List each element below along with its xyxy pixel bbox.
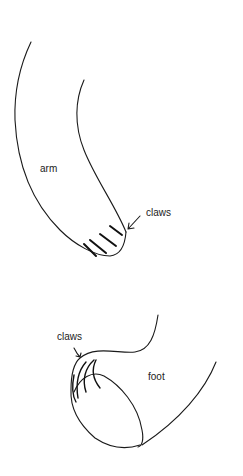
arm-drawing <box>15 42 140 256</box>
arm-inner-outline <box>77 80 126 232</box>
arm-claw-2 <box>100 234 116 246</box>
arm-claws-arrow <box>128 216 140 229</box>
foot-claws-arrow <box>74 348 81 357</box>
arm-outer-outline <box>15 42 126 256</box>
foot-claws-label: claws <box>57 331 82 342</box>
foot-claw-2 <box>84 360 94 392</box>
foot-label: foot <box>148 371 165 382</box>
arm-label: arm <box>40 163 57 174</box>
arm-claw-4 <box>84 244 96 256</box>
diagram-canvas: arm claws claws foot <box>0 0 243 476</box>
arm-claw-1 <box>110 226 122 235</box>
arm-claws-label: claws <box>146 207 171 218</box>
foot-drawing <box>71 315 216 448</box>
